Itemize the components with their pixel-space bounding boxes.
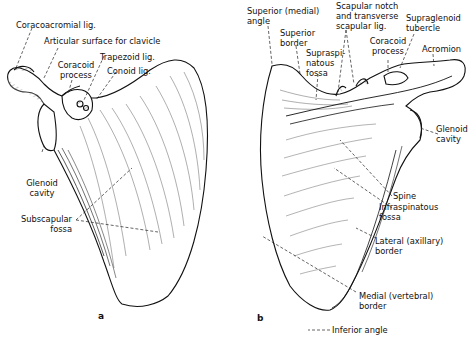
label-glenoid-cavity-a: Glenoid cavity — [22, 178, 62, 198]
label-medial-vertebral-border: Medial (vertebral) border — [359, 291, 433, 311]
label-supraspinatous-fossa: Supraspi- natous fossa — [306, 48, 345, 78]
scapula-figure: Coracoacromial lig. Articular surface fo… — [0, 0, 472, 340]
label-superior-medial-angle: Superior (medial) angle — [247, 6, 319, 26]
label-lateral-axillary-border: Lateral (axillary) border — [375, 236, 443, 256]
panel-label-b: b — [257, 313, 263, 323]
label-coracoid-process-b: Coracoid process — [366, 36, 410, 56]
label-trapezoid-ligament: Trapezoid lig. — [100, 52, 155, 62]
label-coracoacromial-ligament: Coracoacromial lig. — [16, 20, 96, 30]
label-inferior-angle: Inferior angle — [332, 325, 388, 335]
label-acromion: Acromion — [422, 44, 461, 54]
label-conoid-ligament: Conoid lig. — [107, 66, 151, 76]
label-glenoid-cavity-b: Glenoid cavity — [436, 124, 468, 144]
label-superior-border: Superior border — [280, 28, 315, 48]
label-infraspinatous-fossa: Infraspinatous fossa — [379, 202, 438, 222]
label-coracoid-process-a: Coracoid process — [56, 60, 96, 80]
label-spine: Spine — [393, 191, 416, 201]
label-articular-surface-clavicle: Articular surface for clavicle — [44, 36, 160, 46]
scapula-posterior — [260, 60, 465, 311]
label-supraglenoid-tubercle: Supraglenoid tubercle — [406, 13, 461, 33]
panel-label-a: a — [98, 311, 104, 321]
label-scapular-notch: Scapular notch and transverse scapular l… — [336, 1, 398, 31]
label-subscapular-fossa: Subscapular fossa — [20, 214, 72, 234]
